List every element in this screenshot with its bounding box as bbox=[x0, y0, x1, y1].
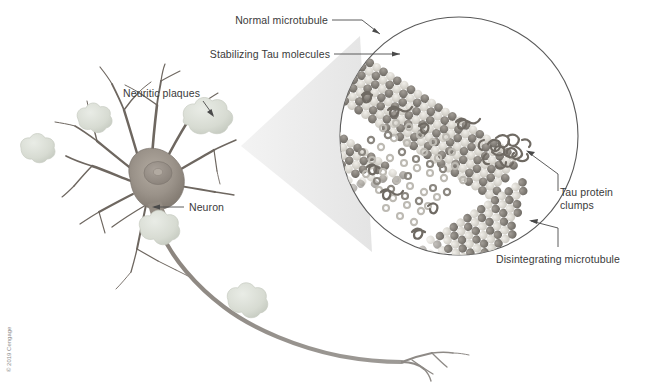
label-neuron: Neuron bbox=[189, 201, 224, 213]
neuritic-plaques bbox=[21, 97, 268, 317]
leader-normal-microtubule bbox=[332, 20, 380, 34]
label-disintegrating-microtubule: Disintegrating microtubule bbox=[496, 253, 620, 265]
nucleolus bbox=[153, 168, 162, 175]
axon-terminals bbox=[402, 352, 469, 381]
neuron-microtubule-figure: Normal microtubule Stabilizing Tau molec… bbox=[0, 0, 647, 385]
plaque-axon-upper bbox=[139, 210, 180, 245]
axon bbox=[161, 232, 402, 362]
label-stabilizing-tau: Stabilizing Tau molecules bbox=[210, 48, 330, 60]
plaque-upper-left bbox=[77, 103, 112, 133]
label-tau-clumps-line1: Tau protein bbox=[560, 186, 613, 198]
figure-canvas: Normal microtubule Stabilizing Tau molec… bbox=[0, 0, 647, 385]
plaque-top-right bbox=[183, 97, 233, 133]
label-tau-clumps-line2: clumps bbox=[560, 199, 594, 211]
label-normal-microtubule: Normal microtubule bbox=[235, 14, 328, 26]
copyright-credit: © 2019 Cengage bbox=[6, 326, 12, 372]
plaque-mid-left bbox=[21, 134, 55, 163]
label-neuritic-plaques: Neuritic plaques bbox=[123, 87, 200, 99]
